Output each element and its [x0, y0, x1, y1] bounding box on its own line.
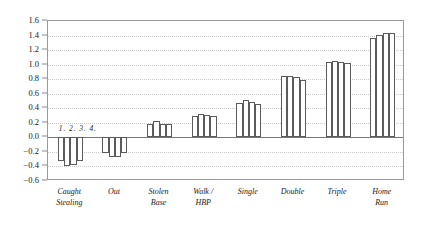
x-axis-category-label: Walk /HBP [181, 186, 226, 208]
y-tick-label: −0.6 [24, 175, 39, 185]
bar [389, 33, 395, 137]
bar-group [227, 21, 272, 179]
y-tick-label: 1.6 [28, 15, 39, 25]
bar-group [48, 21, 93, 179]
bar [300, 80, 306, 137]
x-label-line: Home [359, 186, 404, 197]
bar [77, 137, 83, 160]
y-tick-label: −0.4 [24, 160, 39, 170]
series-annotation: 1. 2. 3. 4. [59, 124, 97, 133]
x-label-line: Stealing [47, 197, 92, 208]
bar-group [182, 21, 227, 179]
y-axis: 1.61.41.21.00.80.60.40.20.0−0.2−0.4−0.6 [0, 0, 47, 200]
x-axis-category-label: HomeRun [359, 186, 404, 208]
y-tick-label: 1.0 [28, 59, 39, 69]
y-tick-label: 0.6 [28, 88, 39, 98]
bar-chart: 1.61.41.21.00.80.60.40.20.0−0.2−0.4−0.6 … [0, 0, 436, 241]
y-tick-label: 0.0 [28, 131, 39, 141]
plot-area: 1. 2. 3. 4. [47, 20, 404, 180]
bar-group [360, 21, 405, 179]
x-axis-category-label: Out [92, 186, 137, 197]
bar [344, 63, 350, 137]
x-label-line: Out [92, 186, 137, 197]
x-label-line: Double [270, 186, 315, 197]
bars-layer [48, 21, 403, 179]
y-tick-label: −0.2 [24, 146, 39, 156]
y-tick-label: 1.2 [28, 44, 39, 54]
x-axis-labels: CaughtStealingOutStolenBaseWalk /HBPSing… [47, 186, 404, 238]
bar-group [316, 21, 361, 179]
x-axis-category-label: Double [270, 186, 315, 197]
x-label-line: Caught [47, 186, 92, 197]
x-label-line: Single [226, 186, 271, 197]
x-axis-category-label: Single [226, 186, 271, 197]
bar [255, 104, 261, 137]
bar-group [137, 21, 182, 179]
x-label-line: HBP [181, 197, 226, 208]
y-tick-label: 1.4 [28, 30, 39, 40]
x-label-line: Run [359, 197, 404, 208]
bar-group [93, 21, 138, 179]
x-axis-category-label: CaughtStealing [47, 186, 92, 208]
x-label-line: Triple [315, 186, 360, 197]
y-tick-label: 0.4 [28, 102, 39, 112]
bar [121, 137, 127, 153]
x-label-line: Walk / [181, 186, 226, 197]
y-tick-label: 0.2 [28, 117, 39, 127]
bar [166, 124, 172, 138]
x-axis-category-label: Triple [315, 186, 360, 197]
x-label-line: Base [136, 197, 181, 208]
x-axis-category-label: StolenBase [136, 186, 181, 208]
bar-group [271, 21, 316, 179]
x-label-line: Stolen [136, 186, 181, 197]
bar [210, 116, 216, 137]
y-tick-label: 0.8 [28, 73, 39, 83]
